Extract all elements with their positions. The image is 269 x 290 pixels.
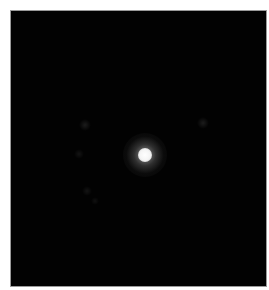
faint-speckle xyxy=(91,197,99,205)
faint-speckle xyxy=(79,119,91,131)
image-frame xyxy=(10,10,267,287)
faint-speckle xyxy=(197,117,209,129)
faint-speckle xyxy=(74,149,84,159)
faint-speckle xyxy=(82,186,92,196)
central-bright-spot xyxy=(138,148,152,162)
